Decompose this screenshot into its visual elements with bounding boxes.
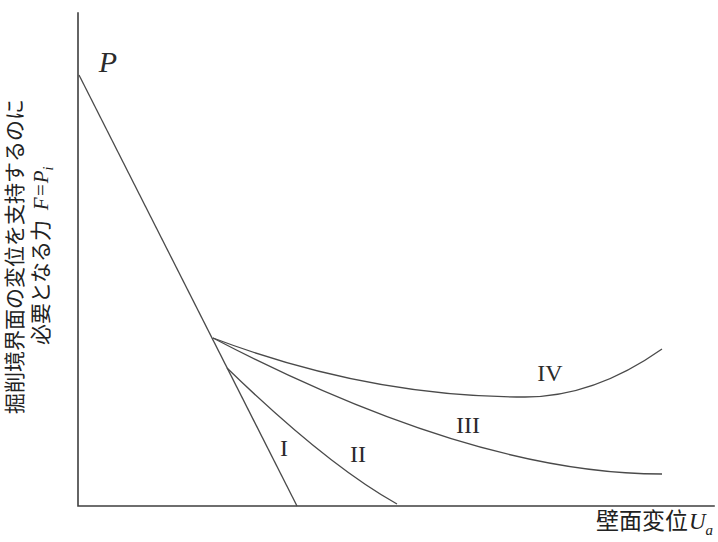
- curve-label-iv: IV: [537, 361, 562, 385]
- x-axis-title: 壁面変位Ua: [596, 508, 713, 539]
- curve-label-ii: II: [350, 442, 366, 466]
- curve-II: [227, 368, 397, 504]
- y-axis-title-line1: 掘削境界面の変位を支持するのに: [2, 86, 28, 426]
- y-axis-title-line2: 必要となる力F=Pi: [28, 86, 62, 426]
- point-p-label: P: [99, 47, 117, 77]
- ground-reaction-curve-figure: PIIIIIIIV 掘削境界面の変位を支持するのに 必要となる力F=Pi 壁面変…: [0, 0, 718, 542]
- curve-label-i: I: [280, 436, 288, 460]
- y-axis-title: 掘削境界面の変位を支持するのに 必要となる力F=Pi: [2, 86, 56, 426]
- axes: [78, 13, 714, 506]
- curve-I-main-line-from-P: [79, 75, 297, 506]
- curves-group: [79, 75, 662, 506]
- curve-IV: [213, 338, 662, 397]
- curve-label-iii: III: [456, 413, 480, 437]
